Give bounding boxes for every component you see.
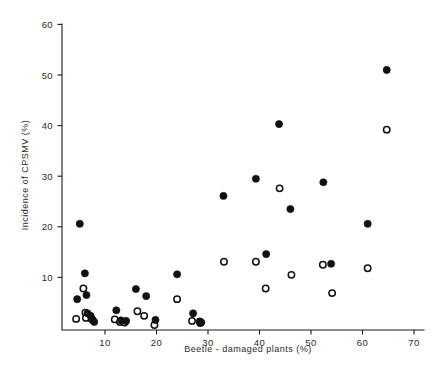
data-point-filled	[189, 310, 196, 317]
data-point-open	[384, 126, 390, 132]
y-tick-label: 20	[42, 221, 53, 232]
y-tick-label: 30	[42, 171, 53, 182]
x-tick-label: 60	[357, 337, 368, 348]
scatter-plot-figure: 102030405060 10203040506070 Beetle - dam…	[0, 0, 437, 372]
data-point-filled	[263, 251, 270, 258]
data-point-open	[174, 296, 180, 302]
data-point-open	[141, 313, 147, 319]
data-point-filled	[143, 293, 150, 300]
data-point-filled	[275, 120, 282, 127]
y-tick-label: 60	[42, 19, 53, 30]
data-point-filled	[220, 192, 227, 199]
data-point-open	[364, 265, 370, 271]
data-point-filled	[76, 220, 83, 227]
data-point-filled	[91, 318, 98, 325]
data-point-filled	[364, 220, 371, 227]
data-point-open	[134, 308, 140, 314]
data-points-group	[73, 66, 390, 328]
data-point-open	[253, 259, 259, 265]
x-tick-label: 20	[151, 337, 162, 348]
data-point-open	[262, 285, 268, 291]
y-tick-label: 40	[42, 120, 53, 131]
data-point-open	[73, 316, 79, 322]
series-filled-circles	[74, 66, 391, 326]
data-point-open	[276, 185, 282, 191]
data-point-filled	[83, 292, 90, 299]
data-point-filled	[123, 317, 130, 324]
x-tick-label: 10	[99, 337, 110, 348]
data-point-filled	[174, 271, 181, 278]
x-tick-label: 70	[408, 337, 419, 348]
data-point-filled	[320, 179, 327, 186]
y-tick-label: 10	[42, 272, 53, 283]
plot-canvas: 102030405060 10203040506070 Beetle - dam…	[0, 0, 437, 372]
data-point-filled	[132, 285, 139, 292]
data-point-filled	[252, 175, 259, 182]
y-tick-label: 50	[42, 70, 53, 81]
data-point-filled	[287, 205, 294, 212]
y-axis-ticks: 102030405060	[42, 19, 62, 283]
x-axis-label: Beetle - damaged plants (%)	[184, 344, 312, 354]
data-point-open	[329, 290, 335, 296]
data-point-filled	[327, 260, 334, 267]
data-point-filled	[152, 316, 159, 323]
y-axis-label: Incidence of CPSMV (%)	[20, 120, 30, 231]
data-point-open	[221, 259, 227, 265]
data-point-filled	[198, 319, 205, 326]
data-point-filled	[81, 270, 88, 277]
data-point-filled	[113, 307, 120, 314]
data-point-open	[320, 262, 326, 268]
data-point-open	[189, 318, 195, 324]
data-point-open	[288, 272, 294, 278]
data-point-filled	[74, 296, 81, 303]
data-point-filled	[383, 66, 390, 73]
data-point-open	[80, 285, 86, 291]
axis-lines	[62, 24, 424, 330]
axes-group	[62, 24, 424, 330]
series-open-circles	[73, 126, 390, 328]
